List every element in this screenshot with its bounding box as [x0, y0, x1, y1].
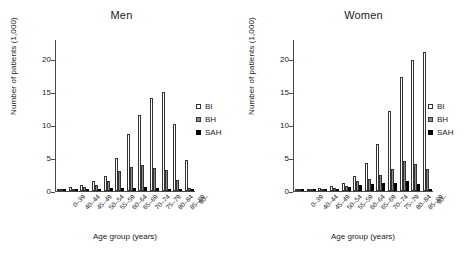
y-tick-mark	[51, 126, 55, 127]
y-tick-mark	[51, 60, 55, 61]
legend-item-bi[interactable]: BI	[196, 100, 221, 113]
legend-label: BI	[205, 100, 213, 113]
panel-title-women: Women	[238, 9, 475, 21]
bar-sah-75_79	[394, 183, 397, 191]
x-tick-container-men: 0–3940–4445–4950–5455–5960–6465–6970–747…	[55, 193, 195, 229]
bar-sah-65_69	[371, 184, 374, 191]
y-axis-label-women: Number of patients (1,000)	[247, 17, 256, 115]
bar-group	[400, 40, 409, 191]
bar-sah-80_84	[168, 189, 171, 191]
legend-label: BI	[437, 100, 445, 113]
y-tick-label: 10	[29, 120, 51, 131]
legend-women: BIBHSAH	[428, 100, 453, 139]
gray-square-icon	[428, 117, 433, 122]
bar-group	[138, 40, 147, 191]
y-tick-mark	[289, 93, 293, 94]
bar-sah-0_39	[63, 189, 66, 191]
plot-area-men: 05101520	[55, 40, 195, 192]
x-axis-label-men: Age group (years)	[55, 232, 195, 241]
bar-sah-65_69	[133, 188, 136, 191]
y-tick-mark	[51, 159, 55, 160]
legend-item-sah[interactable]: SAH	[428, 126, 453, 139]
white-square-icon	[196, 104, 201, 109]
bar-group	[185, 40, 194, 191]
bar-group-container-women	[294, 40, 433, 191]
y-tick-label: 5	[267, 153, 289, 164]
bar-group	[365, 40, 374, 191]
bar-group	[295, 40, 304, 191]
legend-label: SAH	[437, 126, 453, 139]
bar-sah-0_39	[301, 189, 304, 191]
bar-group-container-men	[56, 40, 195, 191]
legend-men: BIBHSAH	[196, 100, 221, 139]
y-tick-label: 15	[267, 87, 289, 98]
bar-sah-70_74	[144, 187, 147, 191]
bar-group	[115, 40, 124, 191]
y-tick-mark	[289, 159, 293, 160]
x-axis-line-men	[55, 191, 195, 192]
bar-sah-40_44	[75, 189, 78, 191]
x-tick-container-women: 0–3940–4445–4950–5455–5960–6465–6970–747…	[293, 193, 433, 229]
bar-sah-75_79	[156, 188, 159, 191]
y-tick-mark	[289, 126, 293, 127]
y-tick-label: 0	[29, 186, 51, 197]
bar-sah-80_84	[406, 181, 409, 191]
bar-group	[330, 40, 339, 191]
bar-group	[69, 40, 78, 191]
black-square-icon	[428, 130, 433, 135]
bar-group	[104, 40, 113, 191]
bar-group	[162, 40, 171, 191]
legend-item-bh[interactable]: BH	[428, 113, 453, 126]
y-tick-label: 10	[267, 120, 289, 131]
y-tick-mark	[51, 93, 55, 94]
legend-item-sah[interactable]: SAH	[196, 126, 221, 139]
bar-sah-55_59	[348, 187, 351, 191]
bar-group	[376, 40, 385, 191]
y-tick-label: 5	[29, 153, 51, 164]
y-tick-label: 20	[267, 54, 289, 65]
bar-group	[342, 40, 351, 191]
bar-sah-70_74	[382, 183, 385, 191]
legend-label: BH	[437, 113, 448, 126]
white-square-icon	[428, 104, 433, 109]
bar-group	[388, 40, 397, 191]
bar-sah-60_64	[121, 188, 124, 191]
y-axis-label-men: Number of patients (1,000)	[9, 17, 18, 115]
chart-panel-men: Men Number of patients (1,000) 05101520 …	[0, 0, 237, 259]
plot-area-women: 05101520	[293, 40, 433, 192]
bar-group	[411, 40, 420, 191]
y-tick-label: 20	[29, 54, 51, 65]
legend-item-bi[interactable]: BI	[428, 100, 453, 113]
bar-sah-55_59	[110, 188, 113, 191]
legend-item-bh[interactable]: BH	[196, 113, 221, 126]
bar-sah-40_44	[313, 189, 316, 191]
bar-sah-85_89	[417, 184, 420, 191]
panel-title-men: Men	[0, 9, 237, 21]
bar-sah-50_54	[98, 189, 101, 191]
legend-label: BH	[205, 113, 216, 126]
bar-sah-45_49	[324, 189, 327, 191]
x-axis-label-women: Age group (years)	[293, 232, 433, 241]
bar-sah-60_64	[359, 185, 362, 191]
bar-group	[318, 40, 327, 191]
two-panel-bar-chart-figure: Men Number of patients (1,000) 05101520 …	[0, 0, 475, 259]
y-tick-mark	[289, 60, 293, 61]
black-square-icon	[196, 130, 201, 135]
bar-group	[173, 40, 182, 191]
bar-group	[57, 40, 66, 191]
bar-bh-90_	[426, 169, 429, 191]
y-tick-label: 0	[267, 186, 289, 197]
legend-label: SAH	[205, 126, 221, 139]
bar-bi-90_	[185, 160, 188, 192]
bar-group	[150, 40, 159, 191]
bar-group	[92, 40, 101, 191]
y-tick-label: 15	[29, 87, 51, 98]
bar-group	[127, 40, 136, 191]
x-axis-line-women	[293, 191, 433, 192]
bar-sah-85_89	[179, 189, 182, 191]
bar-sah-45_49	[86, 189, 89, 191]
gray-square-icon	[196, 117, 201, 122]
bar-group	[353, 40, 362, 191]
bar-sah-90_	[429, 189, 432, 191]
bar-sah-50_54	[336, 189, 339, 191]
